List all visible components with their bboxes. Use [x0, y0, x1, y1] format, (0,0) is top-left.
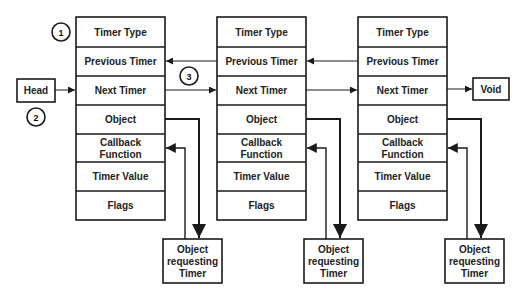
requester-line2: requesting: [308, 256, 359, 267]
field-timer-type: Timer Type: [376, 27, 429, 38]
field-timer-value: Timer Value: [375, 171, 431, 182]
void-box: Void: [473, 78, 509, 100]
field-flags: Flags: [107, 200, 134, 211]
callout-1-label: 1: [58, 28, 63, 38]
timer-node-2: Timer Type Previous Timer Next Timer Obj…: [217, 17, 306, 220]
timer-node-3: Timer Type Previous Timer Next Timer Obj…: [358, 17, 447, 220]
node3-object-links: [447, 119, 481, 239]
field-object: Object: [246, 114, 278, 125]
callout-2-label: 2: [33, 113, 38, 123]
field-previous-timer: Previous Timer: [84, 56, 156, 67]
void-label: Void: [481, 84, 502, 95]
field-next-timer: Next Timer: [236, 85, 288, 96]
field-previous-timer: Previous Timer: [366, 56, 438, 67]
field-next-timer: Next Timer: [95, 85, 147, 96]
requester-line3: Timer: [320, 268, 347, 279]
callout-2: 2: [27, 108, 45, 126]
requester-line2: requesting: [167, 256, 218, 267]
field-flags: Flags: [248, 200, 275, 211]
callout-1: 1: [52, 23, 70, 41]
field-callback-line2: Function: [99, 149, 141, 160]
requester-line1: Object: [318, 244, 350, 255]
field-timer-type: Timer Type: [94, 27, 147, 38]
field-timer-type: Timer Type: [235, 27, 288, 38]
requester-line1: Object: [177, 244, 209, 255]
timer-node-1: Timer Type Previous Timer Next Timer Obj…: [76, 17, 165, 220]
field-callback-line1: Callback: [241, 137, 283, 148]
field-flags: Flags: [389, 200, 416, 211]
requester-line2: requesting: [449, 256, 500, 267]
field-timer-value: Timer Value: [93, 171, 149, 182]
head-box: Head: [17, 79, 55, 102]
node1-object-links: [165, 119, 199, 239]
node2-object-links: [306, 119, 340, 239]
requester-box-2: Object requesting Timer: [304, 239, 363, 283]
field-previous-timer: Previous Timer: [225, 56, 297, 67]
timer-linked-list-diagram: Timer Type Previous Timer Next Timer Obj…: [0, 0, 523, 297]
field-callback-line1: Callback: [100, 137, 142, 148]
requester-line1: Object: [459, 244, 491, 255]
field-object: Object: [105, 114, 137, 125]
field-timer-value: Timer Value: [234, 171, 290, 182]
field-next-timer: Next Timer: [377, 85, 429, 96]
requester-box-3: Object requesting Timer: [445, 239, 504, 283]
field-callback-line1: Callback: [382, 137, 424, 148]
callout-3-label: 3: [186, 72, 191, 82]
callout-3: 3: [180, 67, 198, 85]
head-label: Head: [24, 85, 48, 96]
field-callback-line2: Function: [381, 149, 423, 160]
requester-line3: Timer: [179, 268, 206, 279]
requester-line3: Timer: [461, 268, 488, 279]
field-callback-line2: Function: [240, 149, 282, 160]
field-object: Object: [387, 114, 419, 125]
requester-box-1: Object requesting Timer: [163, 239, 222, 283]
